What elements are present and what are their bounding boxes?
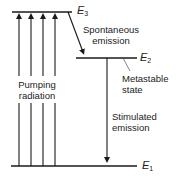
metastable-line2: state bbox=[122, 84, 168, 95]
level-e3-label: E3 bbox=[77, 4, 88, 20]
level-e1-subscript: 1 bbox=[149, 165, 153, 172]
spontaneous-line1: Spontaneous bbox=[80, 24, 142, 35]
pumping-line2: radiation bbox=[12, 90, 62, 101]
metastable-state-label: Metastable state bbox=[122, 73, 168, 95]
stimulated-line2: emission bbox=[112, 122, 157, 133]
stimulated-line1: Stimulated bbox=[112, 111, 157, 122]
spontaneous-line2: emission bbox=[80, 35, 142, 46]
level-e2-label: E2 bbox=[140, 51, 151, 67]
metastable-line1: Metastable bbox=[122, 73, 168, 84]
pumping-radiation-label: Pumping radiation bbox=[12, 79, 62, 101]
spontaneous-emission-label: Spontaneous emission bbox=[80, 24, 142, 46]
level-e2-subscript: 2 bbox=[147, 57, 151, 64]
level-e3-subscript: 3 bbox=[84, 10, 88, 17]
stimulated-emission-label: Stimulated emission bbox=[112, 111, 157, 133]
level-e1-label: E1 bbox=[142, 159, 153, 175]
metastable-leader-line bbox=[123, 58, 130, 71]
pumping-line1: Pumping bbox=[12, 79, 62, 90]
